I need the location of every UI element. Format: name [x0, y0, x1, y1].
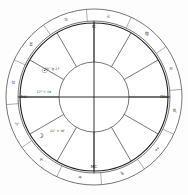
- angle-degree-asc: 17° ♈ 19': [37, 90, 52, 94]
- zodiac-glyph-sagittarius: ♐: [155, 147, 159, 152]
- zodiac-glyph-capricorn: ♑: [120, 171, 124, 176]
- zodiac-glyph-aquarius: ♒: [78, 175, 82, 180]
- zodiac-glyph-taurus: ♉: [11, 80, 15, 85]
- angle-label-dsc: Dsc: [160, 94, 168, 99]
- chart-canvas: ♈♉♊♋♌♍♎♏♐♑♒♓ ☉15° ♍ 27'☽21° ♓ 18' Asc17°…: [0, 0, 188, 195]
- zodiac-glyph-aries: ♈: [15, 122, 19, 127]
- moon-degree-label: 21° ♓ 18': [50, 129, 65, 133]
- zodiac-glyph-leo: ♌: [106, 14, 110, 19]
- angle-label-asc: Asc: [20, 94, 28, 99]
- moon-icon: ☽: [37, 132, 43, 140]
- zodiac-glyph-virgo: ♍: [145, 31, 149, 36]
- zodiac-glyph-scorpio: ♏: [173, 108, 177, 113]
- angle-label-mc: MC: [91, 164, 98, 169]
- zodiac-glyph-gemini: ♊: [29, 42, 33, 47]
- astrology-chart-wheel: ♈♉♊♋♌♍♎♏♐♑♒♓ ☉15° ♍ 27'☽21° ♓ 18' Asc17°…: [0, 0, 188, 195]
- sun-degree-label: 15° ♍ 27': [45, 67, 60, 71]
- zodiac-glyph-libra: ♎: [169, 66, 173, 71]
- angle-label-ic: IC: [92, 24, 96, 29]
- zodiac-glyph-cancer: ♋: [64, 17, 68, 22]
- zodiac-glyph-pisces: ♓: [39, 157, 43, 162]
